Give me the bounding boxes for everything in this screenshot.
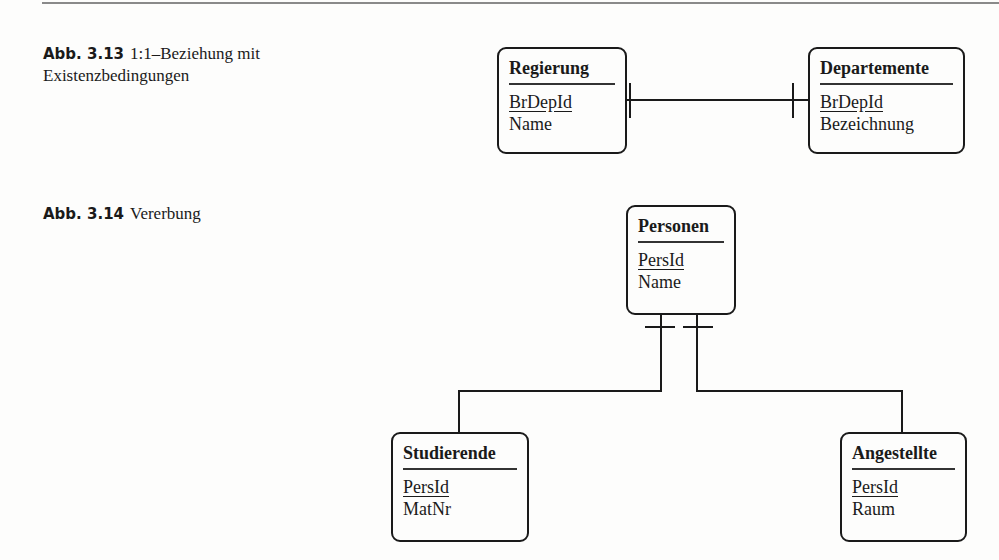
entity-attribute: MatNr — [403, 498, 517, 520]
entity-attribute: Name — [638, 271, 724, 293]
entity-title: Regierung — [509, 57, 615, 85]
entity-attribute: Bezeichnung — [820, 113, 953, 135]
relationship-line-1-1 — [626, 83, 808, 118]
entity-title: Personen — [638, 215, 724, 243]
entity-attribute-primary-key: PersId — [852, 476, 955, 498]
entity-attribute: Name — [509, 113, 615, 135]
inheritance-lines — [459, 314, 902, 432]
entity-attribute-primary-key: BrDepId — [820, 91, 953, 113]
entity-title: Studierende — [403, 442, 517, 470]
entity-studierende: Studierende PersId MatNr — [391, 432, 529, 542]
entity-attribute-primary-key: PersId — [403, 476, 517, 498]
entity-title: Departemente — [820, 57, 953, 85]
entity-attribute: Raum — [852, 498, 955, 520]
entity-attribute-primary-key: PersId — [638, 249, 724, 271]
entity-angestellte: Angestellte PersId Raum — [840, 432, 967, 542]
entity-departemente: Departemente BrDepId Bezeichnung — [808, 47, 965, 154]
entity-attribute-primary-key: BrDepId — [509, 91, 615, 113]
entity-personen: Personen PersId Name — [626, 205, 736, 315]
entity-title: Angestellte — [852, 442, 955, 470]
entity-regierung: Regierung BrDepId Name — [497, 47, 627, 154]
